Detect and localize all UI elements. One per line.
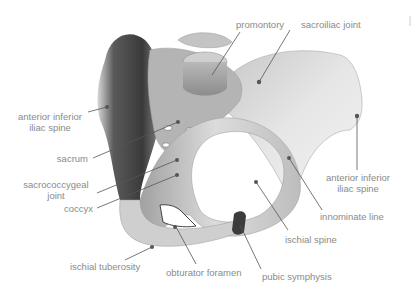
label-line: sacrococcygeal <box>18 179 94 190</box>
label-pubic-symphysis: pubic symphysis <box>262 271 332 282</box>
label-ischial-spine: ischial spine <box>285 234 337 245</box>
label-anterior-inferior-iliac-spine-left: anterior inferior iliac spine <box>12 111 88 133</box>
label-line: anterior inferior <box>12 111 88 122</box>
label-sacrococcygeal-joint: sacrococcygeal joint <box>18 179 94 201</box>
label-obturator-foramen: obturator foramen <box>166 267 242 278</box>
label-sacroiliac-joint: sacroiliac joint <box>301 19 361 30</box>
label-anterior-inferior-iliac-spine-right: anterior inferior iliac spine <box>320 172 396 194</box>
label-line: iliac spine <box>320 183 396 194</box>
label-line: iliac spine <box>12 122 88 133</box>
label-coccyx: coccyx <box>40 203 93 214</box>
label-line: anterior inferior <box>320 172 396 183</box>
label-sacrum: sacrum <box>40 153 88 164</box>
pelvis-diagram: promontory sacroiliac joint anterior inf… <box>0 0 411 297</box>
label-ischial-tuberosity: ischial tuberosity <box>70 261 140 272</box>
pelvis-illustration <box>0 0 411 297</box>
label-promontory: promontory <box>236 19 284 30</box>
label-innominate-line: innominate line <box>320 211 384 222</box>
label-line: joint <box>18 190 94 201</box>
